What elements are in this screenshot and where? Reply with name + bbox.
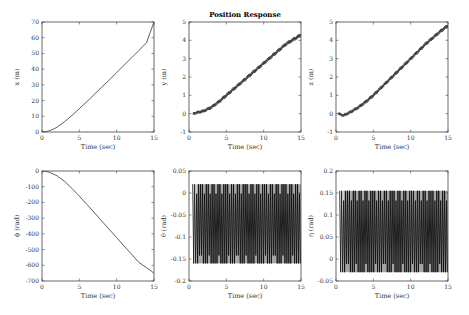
x-axis-label: Time (sec) xyxy=(375,292,410,300)
y-axis-label: ϕ (rad) xyxy=(13,214,21,237)
y-position-plot: 051015-1012345Time (sec)y (m)Position Re… xyxy=(160,10,305,151)
y-tick-label: 3 xyxy=(182,55,186,62)
y-tick-label: 10 xyxy=(31,112,39,119)
x-axis-label: Time (sec) xyxy=(81,143,116,151)
x-tick-label: 10 xyxy=(113,283,121,290)
y-axis-label: y (m) xyxy=(160,68,168,86)
y-tick-label: -300 xyxy=(26,214,40,221)
y-tick-label: 60 xyxy=(31,34,39,41)
x-tick-label: 15 xyxy=(297,283,305,290)
x-axis-label: Time (sec) xyxy=(81,292,116,300)
y-tick-label: 5 xyxy=(329,18,333,25)
x-tick-label: 0 xyxy=(334,283,338,290)
y-tick-label: -0.2 xyxy=(174,277,186,284)
y-tick-label: 0.05 xyxy=(320,233,334,240)
figure: 051015010203040506070Time (sec)x (m)0510… xyxy=(0,0,469,315)
x-tick-label: 0 xyxy=(40,134,44,141)
x-tick-label: 5 xyxy=(224,134,228,141)
y-tick-label: 0 xyxy=(329,255,333,262)
y-tick-label: 4 xyxy=(329,36,333,43)
y-tick-label: -600 xyxy=(26,261,40,268)
x-tick-label: 15 xyxy=(150,134,158,141)
x-axis-label: Time (sec) xyxy=(228,292,263,300)
y-tick-label: -1 xyxy=(327,128,333,135)
y-tick-label: 1 xyxy=(182,91,186,98)
y-tick-label: 0.1 xyxy=(323,211,333,218)
x-tick-label: 5 xyxy=(77,283,81,290)
x-tick-label: 15 xyxy=(150,283,158,290)
x-tick-label: 15 xyxy=(444,134,452,141)
y-tick-label: 0 xyxy=(35,167,39,174)
x-tick-label: 10 xyxy=(260,283,268,290)
eta-plot: 0510150.20.150.10.050-0.05Time (sec)η (r… xyxy=(307,167,452,300)
data-line xyxy=(193,34,301,115)
x-tick-label: 15 xyxy=(297,134,305,141)
axes-frame xyxy=(42,22,154,132)
y-tick-label: 5 xyxy=(182,18,186,25)
data-line xyxy=(338,25,447,117)
y-tick-label: 0.05 xyxy=(173,167,187,174)
y-tick-label: -200 xyxy=(26,198,40,205)
y-axis-label: η (rad) xyxy=(307,214,315,237)
theta-plot: 0510150.050-0.05-0.1-0.15-0.2Time (sec)θ… xyxy=(160,167,305,300)
y-tick-label: 2 xyxy=(182,73,186,80)
x-tick-label: 15 xyxy=(444,283,452,290)
y-axis-label: x (m) xyxy=(13,68,21,85)
data-line xyxy=(42,22,154,132)
y-tick-label: 30 xyxy=(31,81,39,88)
axes-frame xyxy=(189,22,301,132)
x-tick-label: 10 xyxy=(407,283,415,290)
x-axis-label: Time (sec) xyxy=(228,143,263,151)
x-tick-label: 0 xyxy=(40,283,44,290)
data-line xyxy=(42,171,154,273)
y-tick-label: 0 xyxy=(329,110,333,117)
y-tick-label: -0.1 xyxy=(174,233,186,240)
y-tick-label: 0.2 xyxy=(323,167,333,174)
y-tick-label: 50 xyxy=(31,49,39,56)
y-tick-label: -400 xyxy=(26,230,40,237)
x-tick-label: 10 xyxy=(407,134,415,141)
y-tick-label: -700 xyxy=(26,277,40,284)
y-tick-label: -100 xyxy=(26,183,40,190)
y-tick-label: 20 xyxy=(31,97,39,104)
y-tick-label: 70 xyxy=(31,18,39,25)
y-tick-label: 0 xyxy=(182,189,186,196)
x-tick-label: 5 xyxy=(371,283,375,290)
x-tick-label: 5 xyxy=(77,134,81,141)
y-tick-label: 0.15 xyxy=(320,189,334,196)
y-tick-label: -1 xyxy=(180,128,186,135)
chart-title: Position Response xyxy=(209,10,281,19)
y-tick-label: 40 xyxy=(31,65,39,72)
y-tick-label: 1 xyxy=(329,91,333,98)
x-axis-label: Time (sec) xyxy=(375,143,410,151)
y-tick-label: 4 xyxy=(182,36,186,43)
x-tick-label: 0 xyxy=(187,283,191,290)
phi-plot: 0510150-100-200-300-400-500-600-700Time … xyxy=(13,167,158,300)
y-axis-label: z (m) xyxy=(307,68,315,85)
y-tick-label: -0.05 xyxy=(318,277,334,284)
y-tick-label: 0 xyxy=(182,110,186,117)
y-tick-label: -0.15 xyxy=(171,255,187,262)
x-tick-label: 10 xyxy=(260,134,268,141)
x-tick-label: 5 xyxy=(224,283,228,290)
y-axis-label: θ (rad) xyxy=(160,214,168,237)
y-tick-label: 2 xyxy=(329,73,333,80)
x-tick-label: 0 xyxy=(187,134,191,141)
z-position-plot: 051015-1012345Time (sec)z (m) xyxy=(307,18,452,151)
y-tick-label: -0.05 xyxy=(171,211,187,218)
x-position-plot: 051015010203040506070Time (sec)x (m) xyxy=(13,18,158,151)
x-tick-label: 10 xyxy=(113,134,121,141)
axes-frame xyxy=(42,171,154,281)
x-tick-label: 5 xyxy=(371,134,375,141)
x-tick-label: 0 xyxy=(334,134,338,141)
y-tick-label: 3 xyxy=(329,55,333,62)
y-tick-label: 0 xyxy=(35,128,39,135)
y-tick-label: -500 xyxy=(26,246,40,253)
